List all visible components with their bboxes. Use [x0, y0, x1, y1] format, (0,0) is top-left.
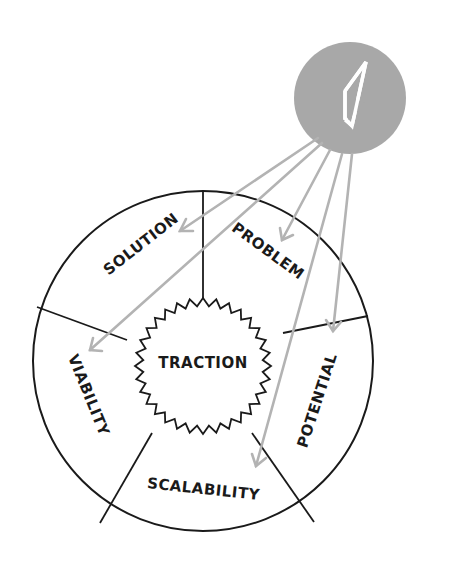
arrow-to-solution	[180, 138, 318, 231]
arrow-to-scalability	[252, 154, 342, 466]
segment-label-potential: POTENTIAL	[294, 351, 341, 450]
segment-label-problem: PROBLEM	[228, 219, 307, 284]
segment-label-solution: SOLUTION	[100, 209, 182, 279]
segment-label-scalability: SCALABILITY	[146, 474, 261, 504]
center-label-traction: TRACTION	[158, 354, 248, 372]
compass-icon	[294, 42, 406, 154]
arrow-to-potential	[326, 154, 352, 331]
segment-label-viability: VIABILITY	[64, 352, 113, 440]
traction-diagram: TRACTION SOLUTION PROBLEM POTENTIAL SCAL…	[0, 0, 451, 578]
